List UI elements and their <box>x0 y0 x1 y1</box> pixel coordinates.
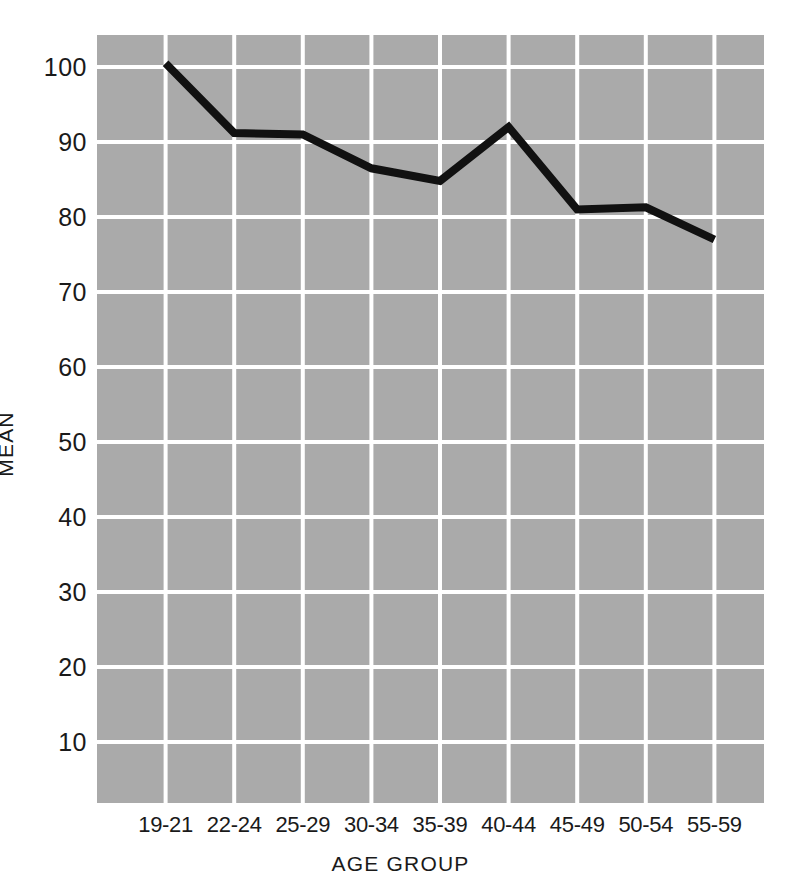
y-axis-tick-labels: 102030405060708090100 <box>0 0 97 889</box>
x-tick-label: 19-21 <box>138 812 193 838</box>
x-tick-label: 55-59 <box>687 812 742 838</box>
x-tick-label: 35-39 <box>413 812 468 838</box>
x-tick-label: 25-29 <box>275 812 330 838</box>
x-tick-label: 30-34 <box>344 812 399 838</box>
data-series-line <box>97 35 764 803</box>
y-tick-label: 30 <box>58 578 87 607</box>
x-tick-label: 40-44 <box>481 812 536 838</box>
plot-area <box>97 35 764 803</box>
x-tick-label: 45-49 <box>550 812 605 838</box>
y-tick-label: 40 <box>58 503 87 532</box>
y-tick-label: 90 <box>58 128 87 157</box>
y-tick-label: 10 <box>58 728 87 757</box>
y-tick-label: 20 <box>58 653 87 682</box>
series-polyline <box>166 63 715 239</box>
x-tick-label: 22-24 <box>207 812 262 838</box>
x-axis-tick-labels: 19-2122-2425-2930-3435-3940-4445-4950-54… <box>97 812 764 846</box>
x-axis-title: AGE GROUP <box>0 852 801 876</box>
chart-figure: MEAN 102030405060708090100 19-2122-2425-… <box>0 0 801 889</box>
y-tick-label: 60 <box>58 353 87 382</box>
y-tick-label: 80 <box>58 203 87 232</box>
x-tick-label: 50-54 <box>618 812 673 838</box>
y-tick-label: 100 <box>44 53 87 82</box>
y-tick-label: 70 <box>58 278 87 307</box>
y-tick-label: 50 <box>58 428 87 457</box>
